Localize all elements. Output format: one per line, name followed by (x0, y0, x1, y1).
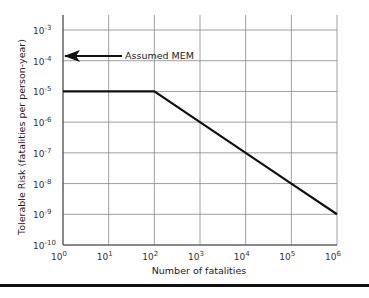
svg-text:103: 103 (188, 250, 204, 262)
svg-text:101: 101 (97, 250, 113, 262)
risk-chart: 10010110210310410510610-310-410-510-610-… (0, 0, 369, 298)
annotation-label: Assumed MEM (125, 50, 194, 61)
x-axis-label: Number of fatalities (152, 265, 247, 276)
svg-text:10-6: 10-6 (33, 116, 52, 128)
svg-text:10-9: 10-9 (33, 208, 51, 220)
annotation: Assumed MEM (64, 50, 194, 62)
svg-text:106: 106 (325, 250, 341, 262)
svg-text:10-7: 10-7 (33, 147, 51, 159)
svg-text:102: 102 (142, 250, 158, 262)
svg-text:105: 105 (279, 250, 295, 262)
svg-text:10-5: 10-5 (33, 85, 51, 97)
svg-text:10-8: 10-8 (33, 178, 51, 190)
svg-text:100: 100 (51, 250, 67, 262)
svg-text:10-10: 10-10 (33, 239, 56, 251)
svg-text:10-3: 10-3 (33, 24, 51, 36)
grid (63, 15, 337, 245)
divider-rule (0, 284, 369, 287)
svg-text:10-4: 10-4 (33, 55, 52, 67)
svg-text:104: 104 (234, 250, 250, 262)
y-axis-label: Tolerable Risk (fatalities per person-ye… (16, 39, 27, 236)
